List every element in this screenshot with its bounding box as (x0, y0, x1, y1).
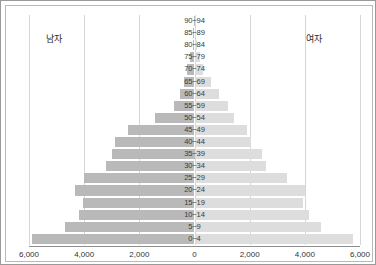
bar-female-65-69 (195, 77, 212, 87)
bar-female-15-19 (195, 198, 304, 208)
bar-male-45-49 (128, 125, 195, 135)
pyramid-row: 75~79 (29, 51, 360, 63)
pyramid-row: 90~94 (29, 15, 360, 27)
bar-male-65-69 (184, 77, 195, 87)
pyramid-row: 70~74 (29, 63, 360, 75)
bar-female-55-59 (195, 101, 228, 111)
pyramid-row: 30~34 (29, 160, 360, 172)
bar-male-50-54 (155, 113, 195, 123)
plot-area: 90~9485~8980~8475~7970~7465~6960~6455~59… (29, 15, 360, 245)
bar-female-80-84 (195, 40, 197, 50)
bar-female-25-29 (195, 173, 287, 183)
pyramid-row: 10~14 (29, 209, 360, 221)
bar-male-15-19 (83, 198, 195, 208)
pyramid-row: 60~64 (29, 88, 360, 100)
chart-outer-frame: 90~9485~8980~8475~7970~7465~6960~6455~59… (0, 0, 376, 265)
bar-male-5-9 (65, 222, 195, 232)
bar-female-0-4 (195, 234, 354, 244)
pyramid-row: 55~59 (29, 100, 360, 112)
series-label-female: 여자 (306, 32, 322, 45)
bar-female-40-44 (195, 137, 252, 147)
bar-female-70-74 (195, 64, 204, 74)
bar-male-25-29 (84, 173, 194, 183)
x-axis-tick: 2,000 (240, 250, 260, 259)
bar-female-20-24 (195, 185, 305, 195)
bar-male-40-44 (115, 137, 195, 147)
x-axis-tick: 6,000 (350, 250, 370, 259)
bar-male-10-14 (79, 210, 195, 220)
bar-female-10-14 (195, 210, 309, 220)
bar-male-70-74 (187, 64, 194, 74)
x-axis-tick: 6,000 (19, 250, 39, 259)
pyramid-row: 5~9 (29, 221, 360, 233)
bar-female-30-34 (195, 161, 267, 171)
pyramid-row: 40~44 (29, 136, 360, 148)
pyramid-row: 65~69 (29, 76, 360, 88)
bar-female-35-39 (195, 149, 263, 159)
x-axis-tick: 4,000 (295, 250, 315, 259)
pyramid-row: 15~19 (29, 197, 360, 209)
bar-female-60-64 (195, 89, 220, 99)
pyramid-row: 45~49 (29, 124, 360, 136)
bar-female-85-89 (195, 28, 196, 38)
bar-male-0-4 (32, 234, 195, 244)
pyramid-row: 35~39 (29, 148, 360, 160)
bar-male-35-39 (112, 149, 195, 159)
bar-female-50-54 (195, 113, 235, 123)
bar-male-30-34 (106, 161, 194, 171)
x-axis-tick: 2,000 (129, 250, 149, 259)
pyramid-row: 25~29 (29, 172, 360, 184)
gridline (360, 15, 361, 245)
chart-inner-frame: 90~9485~8980~8475~7970~7465~6960~6455~59… (5, 5, 373, 262)
x-axis: 6,0004,0002,00002,0004,0006,000 (29, 246, 360, 263)
pyramid-row: 50~54 (29, 112, 360, 124)
bar-female-45-49 (195, 125, 247, 135)
bar-female-5-9 (195, 222, 322, 232)
bar-female-90-94 (195, 16, 196, 26)
bar-male-55-59 (174, 101, 195, 111)
bar-male-20-24 (75, 185, 195, 195)
pyramid-row: 20~24 (29, 184, 360, 196)
series-label-male: 남자 (46, 32, 62, 45)
bar-female-75-79 (195, 52, 201, 62)
pyramid-row: 0~4 (29, 233, 360, 245)
x-axis-tick: 4,000 (74, 250, 94, 259)
x-axis-tick: 0 (192, 250, 196, 259)
bar-male-60-64 (180, 89, 195, 99)
